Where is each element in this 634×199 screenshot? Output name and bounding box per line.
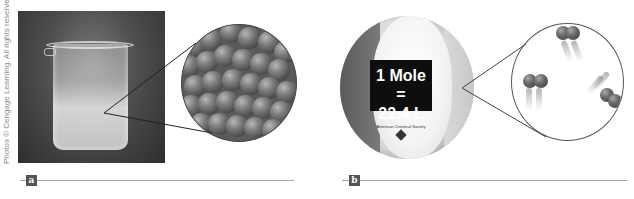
- callout-lines: [0, 0, 634, 199]
